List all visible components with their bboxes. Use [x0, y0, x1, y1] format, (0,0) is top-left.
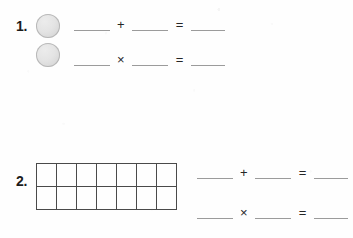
- problem-1-counters-group: [36, 14, 60, 67]
- sum-result-blank[interactable]: [191, 19, 225, 31]
- array-grid-cell[interactable]: [137, 187, 157, 210]
- array-grid-body: [37, 164, 177, 210]
- equals-sign-icon: =: [176, 53, 184, 68]
- worksheet-page: 1. + = × = 2.: [0, 0, 353, 238]
- array-grid-cell[interactable]: [77, 164, 97, 187]
- array-grid-cell[interactable]: [37, 187, 57, 210]
- array-grid-row: [37, 164, 177, 187]
- counter-circle-icon[interactable]: [36, 14, 60, 38]
- problem-2-addition-equation: + =: [197, 166, 348, 180]
- counter-circle-icon[interactable]: [36, 43, 60, 67]
- array-grid-cell[interactable]: [57, 164, 77, 187]
- problem-2-equations: + = × =: [197, 166, 348, 220]
- problem-2-multiplication-equation: × =: [197, 206, 348, 220]
- equals-sign-icon: =: [299, 166, 307, 181]
- plus-operator-icon: +: [117, 18, 125, 33]
- problem-1: 1. + = × =: [16, 14, 225, 67]
- multiply-operator-icon: ×: [117, 53, 125, 68]
- factor-b-blank[interactable]: [255, 207, 291, 219]
- array-grid-cell[interactable]: [97, 187, 117, 210]
- array-grid-cell[interactable]: [117, 164, 137, 187]
- array-grid-cell[interactable]: [117, 187, 137, 210]
- problem-1-number: 1.: [16, 19, 27, 33]
- addend-b-blank[interactable]: [132, 19, 168, 31]
- product-result-blank[interactable]: [314, 207, 348, 219]
- problem-2-number: 2.: [16, 174, 27, 188]
- equals-sign-icon: =: [176, 18, 184, 33]
- factor-a-blank[interactable]: [74, 54, 110, 66]
- problem-1-addition-equation: + =: [74, 18, 225, 32]
- array-grid-cell[interactable]: [137, 164, 157, 187]
- array-grid-cell[interactable]: [97, 164, 117, 187]
- problem-1-equations: + = × =: [74, 18, 225, 67]
- product-result-blank[interactable]: [191, 54, 225, 66]
- factor-b-blank[interactable]: [132, 54, 168, 66]
- addend-a-blank[interactable]: [197, 167, 233, 179]
- addend-a-blank[interactable]: [74, 19, 110, 31]
- array-grid: [36, 163, 177, 210]
- array-grid-cell[interactable]: [37, 164, 57, 187]
- problem-2-grid-wrap: [36, 163, 177, 210]
- problem-1-multiplication-equation: × =: [74, 53, 225, 67]
- array-grid-cell[interactable]: [57, 187, 77, 210]
- problem-2: 2. + = × =: [16, 160, 348, 220]
- addend-b-blank[interactable]: [255, 167, 291, 179]
- factor-a-blank[interactable]: [197, 207, 233, 219]
- multiply-operator-icon: ×: [240, 206, 248, 221]
- array-grid-row: [37, 187, 177, 210]
- array-grid-cell[interactable]: [77, 187, 97, 210]
- equals-sign-icon: =: [299, 206, 307, 221]
- plus-operator-icon: +: [240, 166, 248, 181]
- array-grid-cell[interactable]: [157, 187, 177, 210]
- sum-result-blank[interactable]: [314, 167, 348, 179]
- array-grid-cell[interactable]: [157, 164, 177, 187]
